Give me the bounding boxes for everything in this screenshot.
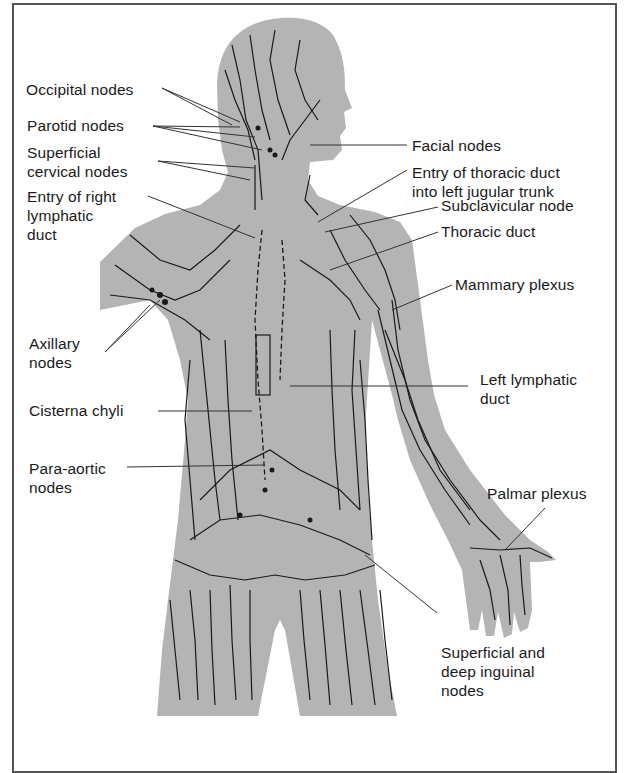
label-inguinal-nodes: Superficial and deep inguinal nodes <box>441 643 545 700</box>
label-entry-right-lymphatic-duct: Entry of right lymphatic duct <box>27 187 116 244</box>
label-left-lymphatic-duct: Left lymphatic duct <box>480 370 577 408</box>
label-palmar-plexus: Palmar plexus <box>487 484 587 503</box>
label-parotid-nodes: Parotid nodes <box>27 116 124 135</box>
label-facial-nodes: Facial nodes <box>412 136 501 155</box>
label-mammary-plexus: Mammary plexus <box>455 275 574 294</box>
label-axillary-nodes: Axillary nodes <box>29 334 80 372</box>
body-silhouette <box>100 18 556 716</box>
label-thoracic-duct: Thoracic duct <box>441 222 535 241</box>
label-cisterna-chyli: Cisterna chyli <box>29 401 123 420</box>
label-para-aortic-nodes: Para-aortic nodes <box>29 459 106 497</box>
label-superficial-cervical-nodes: Superficial cervical nodes <box>27 143 127 181</box>
label-subclavicular-node: Subclavicular node <box>441 196 574 215</box>
label-occipital-nodes: Occipital nodes <box>26 80 133 99</box>
